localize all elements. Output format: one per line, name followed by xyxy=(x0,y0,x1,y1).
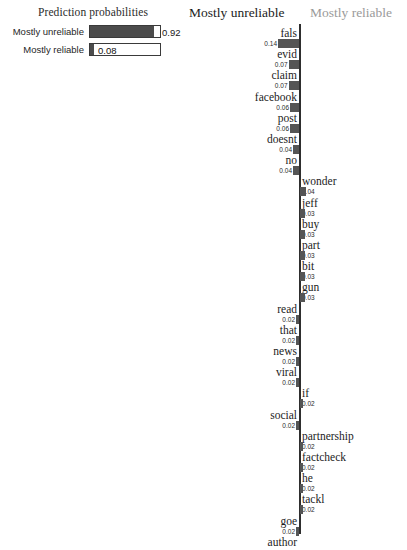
feature-word: read xyxy=(277,303,297,315)
feature-word: claim xyxy=(271,69,297,81)
feature-word: jeff xyxy=(302,197,318,209)
feature-row: evid0.07 xyxy=(0,49,407,71)
feature-weight-value: 0.02 xyxy=(282,528,295,536)
feature-word: news xyxy=(273,345,297,357)
feature-weight-bar xyxy=(300,251,305,260)
feature-word: facebook xyxy=(255,91,297,103)
feature-row: bit0.03 xyxy=(0,261,407,283)
feature-weight-bar xyxy=(290,103,299,112)
feature-weight-bar xyxy=(296,315,299,324)
feature-weight-value: 0.14 xyxy=(264,40,277,48)
feature-word: doesnt xyxy=(267,133,297,145)
feature-word: gun xyxy=(302,281,319,293)
feature-weight-bar xyxy=(296,378,299,387)
feature-word: that xyxy=(280,324,297,336)
feature-word: bit xyxy=(302,260,314,272)
feature-row: goe0.02 xyxy=(0,516,407,538)
feature-weight-bar xyxy=(300,272,305,281)
feature-word: part xyxy=(302,239,320,251)
feature-word: wonder xyxy=(302,175,337,187)
feature-weight-value: 0.02 xyxy=(302,443,315,451)
feature-weight-value: 0.02 xyxy=(302,464,315,472)
feature-row: if0.02 xyxy=(0,388,407,410)
feature-weight-bar xyxy=(278,39,299,48)
feature-weight-value: 0.07 xyxy=(275,82,288,90)
feature-word: evid xyxy=(277,48,297,60)
feature-weight-value: 0.02 xyxy=(282,422,295,430)
feature-word: he xyxy=(302,472,313,484)
feature-row: gun0.03 xyxy=(0,282,407,304)
feature-weight-bar xyxy=(293,166,299,175)
feature-word: tackl xyxy=(302,493,324,505)
feature-row: factcheck0.02 xyxy=(0,452,407,474)
feature-row: author xyxy=(0,537,407,550)
feature-row: wonder0.04 xyxy=(0,176,407,198)
feature-word: author xyxy=(268,536,297,548)
feature-weight-bar xyxy=(300,209,305,218)
class-header-mostly-reliable: Mostly reliable xyxy=(310,5,392,21)
feature-weight-bar xyxy=(300,442,303,451)
feature-weight-bar xyxy=(296,421,299,430)
feature-weight-value: 0.02 xyxy=(282,379,295,387)
feature-weight-value: 0.02 xyxy=(282,316,295,324)
feature-weight-value: 0.04 xyxy=(279,146,292,154)
feature-weight-value: 0.07 xyxy=(275,61,288,69)
feature-row: viral0.02 xyxy=(0,367,407,389)
feature-word: post xyxy=(278,112,297,124)
feature-row: part0.03 xyxy=(0,240,407,262)
feature-row: that0.02 xyxy=(0,325,407,347)
feature-weight-bar xyxy=(296,527,299,536)
feature-weight-bar xyxy=(300,187,306,196)
feature-weight-bar xyxy=(300,484,303,493)
feature-weight-bar xyxy=(293,145,299,154)
feature-row: doesnt0.04 xyxy=(0,134,407,156)
feature-weight-value: 0.06 xyxy=(276,125,289,133)
feature-weight-bar xyxy=(300,293,305,302)
prediction-probabilities-title: Prediction probabilities xyxy=(0,6,180,18)
feature-row: claim0.07 xyxy=(0,70,407,92)
class-header-mostly-unreliable: Mostly unreliable xyxy=(189,5,285,21)
feature-word: if xyxy=(302,387,309,399)
feature-weight-chart: fals0.14evid0.07claim0.07facebook0.06pos… xyxy=(0,24,407,537)
feature-row: buy0.03 xyxy=(0,219,407,241)
feature-row: read0.02 xyxy=(0,304,407,326)
feature-row: news0.02 xyxy=(0,346,407,368)
feature-word: goe xyxy=(280,515,297,527)
feature-row: post0.06 xyxy=(0,113,407,135)
feature-row: fals0.14 xyxy=(0,28,407,50)
feature-weight-bar xyxy=(300,505,303,514)
feature-row: he0.02 xyxy=(0,473,407,495)
feature-word: no xyxy=(286,154,298,166)
class-headers: Mostly unreliable Mostly reliable xyxy=(186,5,407,25)
feature-word: buy xyxy=(302,218,319,230)
feature-weight-bar xyxy=(289,81,300,90)
feature-weight-bar xyxy=(290,124,299,133)
feature-weight-value: 0.02 xyxy=(302,506,315,514)
feature-weight-value: 0.02 xyxy=(302,485,315,493)
feature-weight-value: 0.04 xyxy=(279,167,292,175)
feature-weight-bar xyxy=(289,60,300,69)
feature-word: factcheck xyxy=(302,451,346,463)
feature-weight-bar xyxy=(296,336,299,345)
feature-row: no0.04 xyxy=(0,155,407,177)
feature-word: fals xyxy=(280,27,297,39)
feature-weight-bar xyxy=(300,230,305,239)
feature-weight-value: 0.02 xyxy=(282,337,295,345)
feature-word: social xyxy=(270,409,297,421)
feature-word: partnership xyxy=(302,430,354,442)
feature-word: viral xyxy=(276,366,297,378)
feature-weight-value: 0.06 xyxy=(276,104,289,112)
feature-weight-value: 0.02 xyxy=(302,400,315,408)
feature-row: jeff0.03 xyxy=(0,198,407,220)
feature-row: partnership0.02 xyxy=(0,431,407,453)
feature-weight-bar xyxy=(300,399,303,408)
feature-weight-bar xyxy=(300,463,303,472)
feature-weight-value: 0.02 xyxy=(282,358,295,366)
feature-row: social0.02 xyxy=(0,410,407,432)
feature-row: facebook0.06 xyxy=(0,92,407,114)
feature-row: tackl0.02 xyxy=(0,494,407,516)
feature-weight-bar xyxy=(296,357,299,366)
